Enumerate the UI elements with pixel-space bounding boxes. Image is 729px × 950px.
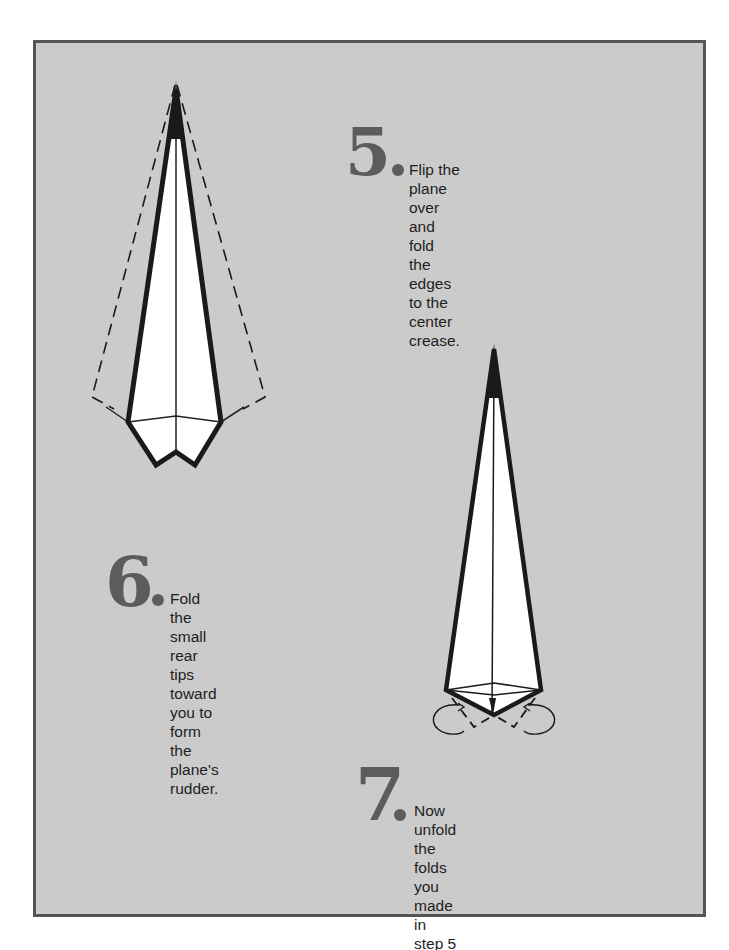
step-text: Flip the plane over and fold the edges t… <box>409 160 460 350</box>
bullet-dot-icon <box>152 594 164 606</box>
instruction-panel: 5 Flip the plane over and fold the edges… <box>33 40 706 917</box>
paper-plane-fold-edges-diagram-icon <box>86 79 286 469</box>
bullet-dot-icon <box>392 164 404 176</box>
step-text: Fold the small rear tips toward you to f… <box>170 589 219 798</box>
step-number: 6 <box>105 547 152 617</box>
step-number: 7 <box>355 759 403 831</box>
step-number: 5 <box>345 119 389 185</box>
paper-plane-rudder-fold-diagram-icon <box>416 343 586 773</box>
bullet-dot-icon <box>394 809 406 821</box>
step-text: Now unfold the folds you made in step 5 … <box>414 801 459 950</box>
